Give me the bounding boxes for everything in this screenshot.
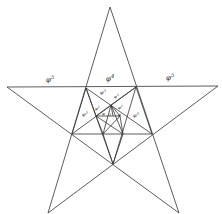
label-exponent: 3 [86,111,89,115]
label-phi-b: φ [118,112,121,117]
pentagram-diagram: φ5φ4φ5φ3φ3φ3φ2φ2φ3φφ1 [0,0,222,214]
label-exponent: 4 [110,73,114,79]
label-phi4-top: φ4 [106,73,114,83]
phi-labels: φ5φ4φ5φ3φ3φ3φ2φ2φ3φφ1 [46,72,175,119]
label-exponent: 5 [51,74,55,80]
label-exponent: 2 [120,104,123,108]
label-phi3-top: φ3 [100,89,107,96]
label-exponent: 3 [137,112,140,116]
label-phi3-inner: φ3 [114,93,119,99]
label-phi3-left: φ3 [82,111,89,118]
label-phi5-left: φ5 [46,74,55,84]
label-exponent: 3 [104,89,107,93]
label-phi2-a: φ2 [95,105,100,111]
pentagram-outline [7,7,218,213]
label-phi3-right: φ3 [133,112,140,119]
inner-construction-lines [72,87,152,164]
label-one: 1 [109,112,112,117]
label-exponent: 3 [117,93,119,97]
label-phi2-b: φ2 [118,104,123,110]
label-exponent: 2 [97,105,100,109]
label-phi-a: φ [102,111,105,116]
label-exponent: 5 [171,72,175,78]
label-phi5-right: φ5 [166,72,175,82]
